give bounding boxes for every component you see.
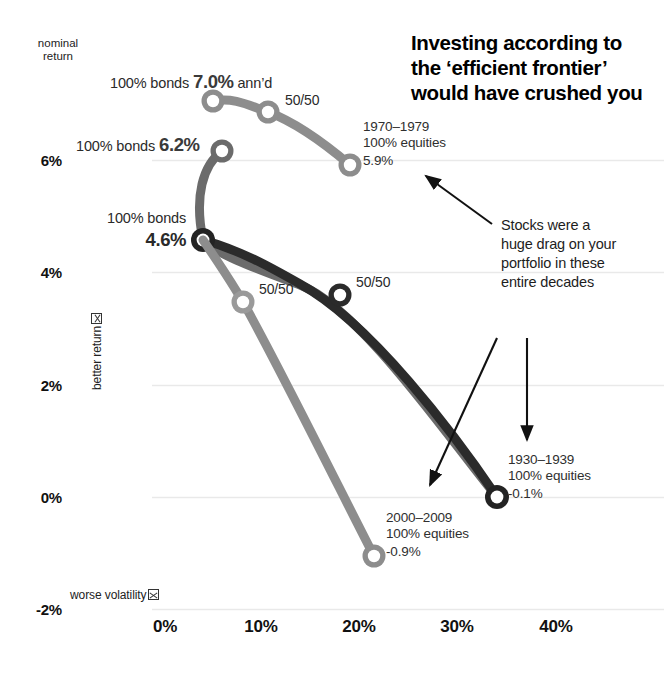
headline-line-3: would have crushed you xyxy=(411,80,643,105)
callout-line-1: Stocks were a xyxy=(501,216,616,235)
label-equities-1930: 1930–1939 100% equities -0.1% xyxy=(508,452,591,502)
marker-equities-1970-hole xyxy=(344,159,356,171)
y-axis-caption-side: better return xyxy=(90,313,104,390)
y-tick-2: 2% xyxy=(20,377,62,395)
y-axis-caption-side-text: better return xyxy=(90,326,104,390)
y-tick-0: 0% xyxy=(20,489,62,507)
callout-line-4: entire decades xyxy=(501,273,616,292)
x-tick-40: 40% xyxy=(523,617,589,637)
marker-bonds-1970-hole xyxy=(207,95,219,107)
callout-stocks-drag: Stocks were a huge drag on your portfoli… xyxy=(501,216,616,293)
up-arrow-icon xyxy=(91,313,102,324)
x-tick-20: 20% xyxy=(326,617,392,637)
label-5050-1930: 50/50 xyxy=(356,274,390,291)
marker-5050-2000-hole xyxy=(237,296,249,308)
label-bonds-1930-prefix: 100% bonds xyxy=(76,138,159,154)
label-equities-2000-alloc: 100% equities xyxy=(386,526,469,542)
x-axis-caption: worse volatility xyxy=(70,588,159,602)
y-axis-caption-top-line2: return xyxy=(27,50,89,63)
label-bonds-1930-value: 6.2% xyxy=(159,134,200,155)
headline-line-1: Investing according to xyxy=(411,30,643,55)
series-1970-1979-line xyxy=(213,100,350,165)
y-tick-neg2: -2% xyxy=(14,601,62,619)
label-equities-1930-value: -0.1% xyxy=(508,486,591,502)
label-bonds-1970-prefix: 100% bonds xyxy=(110,75,193,91)
label-5050-1970: 50/50 xyxy=(285,92,319,109)
page-title: Investing according to the ‘efficient fr… xyxy=(411,30,643,105)
x-tick-10: 10% xyxy=(228,617,294,637)
label-equities-2000-decade: 2000–2009 xyxy=(386,510,469,526)
arrow-to-5p9 xyxy=(426,176,492,224)
marker-equities-2000-hole xyxy=(368,550,380,562)
callout-line-2: huge drag on your xyxy=(501,235,616,254)
label-equities-2000: 2000–2009 100% equities -0.9% xyxy=(386,510,469,560)
headline-line-2: the ‘efficient frontier’ xyxy=(411,55,643,80)
right-arrow-icon xyxy=(148,589,159,600)
marker-equities-1930-hole xyxy=(491,491,504,504)
x-tick-0: 0% xyxy=(135,617,195,637)
y-axis-caption-top-line1: nominal xyxy=(27,37,89,50)
label-equities-1970-alloc: 100% equities xyxy=(363,135,446,151)
label-bonds-1930: 100% bonds 6.2% xyxy=(76,134,200,156)
label-bonds-1970-suffix: ann’d xyxy=(234,75,273,91)
label-bonds-2000-value: 4.6% xyxy=(107,229,186,251)
label-bonds-1970-value: 7.0% xyxy=(193,71,234,92)
label-bonds-1970: 100% bonds 7.0% ann’d xyxy=(110,71,272,93)
series-1930-1939-line-dark xyxy=(203,240,497,497)
label-equities-1930-decade: 1930–1939 xyxy=(508,452,591,468)
label-bonds-2000-prefix: 100% bonds xyxy=(107,210,186,227)
x-axis-caption-text: worse volatility xyxy=(70,588,146,602)
label-equities-1970-decade: 1970–1979 xyxy=(363,119,446,135)
chart-canvas: Investing according to the ‘efficient fr… xyxy=(0,0,671,676)
y-axis-caption-top: nominal return xyxy=(27,37,89,63)
marker-5050-1930-hole xyxy=(334,289,346,301)
label-equities-2000-value: -0.9% xyxy=(386,544,469,560)
marker-5050-1970-hole xyxy=(262,106,274,118)
series-1930-1939 xyxy=(191,140,509,510)
label-equities-1970-value: 5.9% xyxy=(363,153,446,169)
y-tick-6: 6% xyxy=(20,152,62,170)
marker-bonds-1930-hole xyxy=(216,145,228,157)
arrow-to-2000s xyxy=(430,338,497,485)
callout-line-3: portfolio in these xyxy=(501,254,616,273)
label-equities-1970: 1970–1979 100% equities 5.9% xyxy=(363,119,446,169)
y-tick-4: 4% xyxy=(20,264,62,282)
x-tick-30: 30% xyxy=(424,617,490,637)
label-equities-1930-alloc: 100% equities xyxy=(508,468,591,484)
series-1970-1979 xyxy=(202,90,362,177)
label-5050-2000: 50/50 xyxy=(259,281,293,298)
label-bonds-2000: 100% bonds 4.6% xyxy=(107,210,186,251)
